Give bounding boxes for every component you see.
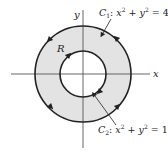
c1-equation-label: C1: x2 + y2 = 4	[99, 6, 168, 19]
x-axis-label: x	[153, 68, 159, 79]
annulus-diagram: y x R C1: x2 + y2 = 4 C2: x2 + y2 = 1	[0, 0, 168, 157]
c2-equation-label: C2: x2 + y2 = 1	[98, 123, 168, 136]
inner-arrow-icons	[65, 51, 103, 97]
c1-leader-line	[103, 19, 111, 33]
y-axis-label: y	[73, 9, 80, 20]
region-label: R	[56, 43, 65, 54]
